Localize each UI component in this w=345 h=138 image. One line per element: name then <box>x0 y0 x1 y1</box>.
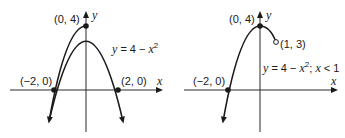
figure: x y (0, 4) (−2, 0) (2, 0) y = 4 − x2 x y… <box>0 0 345 138</box>
right-y-axis-label: y <box>265 8 272 22</box>
left-graph: x y (0, 4) (−2, 0) (2, 0) y = 4 − x2 <box>10 8 163 132</box>
right-open-endpoint <box>274 40 279 45</box>
right-open-point-label: (1, 3) <box>280 38 306 50</box>
right-root-point-neg2 <box>225 87 231 93</box>
right-equation-label: y = 4 − x2; x < 1 <box>262 60 339 75</box>
right-vertex-label: (0, 4) <box>229 13 255 25</box>
left-root-point-2 <box>115 87 121 93</box>
left-root-point-neg2 <box>51 87 57 93</box>
left-vertex-label: (0, 4) <box>54 13 80 25</box>
right-vertex-point <box>257 23 263 29</box>
right-x-axis-label: x <box>330 74 337 88</box>
left-root-label-neg2: (−2, 0) <box>20 75 52 87</box>
left-vertex-point <box>83 23 89 29</box>
left-root-label-2: (2, 0) <box>121 75 147 87</box>
left-x-axis-label: x <box>156 74 163 88</box>
left-parabola-left-arrow <box>49 26 86 121</box>
right-graph: x y (0, 4) (−2, 0) (1, 3) y = 4 − x2; x … <box>184 8 339 132</box>
left-y-axis-label: y <box>91 8 98 22</box>
right-root-label-neg2: (−2, 0) <box>193 75 225 87</box>
left-equation-label: y = 4 − x2 <box>111 41 159 56</box>
